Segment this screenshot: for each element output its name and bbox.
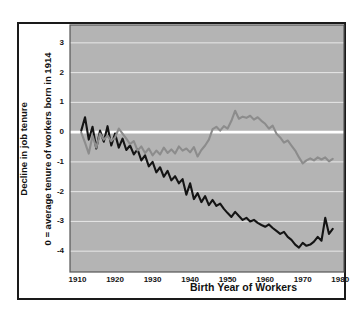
y-axis-label-line-1: Decline in job tenure (18, 102, 29, 195)
x-tick-label: 1940 (176, 275, 204, 284)
x-tick-label: 1960 (251, 275, 279, 284)
y-tick-label: 2 (46, 68, 64, 77)
y-tick-label: -3 (46, 216, 64, 225)
x-tick-label: 1970 (289, 275, 317, 284)
chart-figure: Decline in job tenure 0 = average tenure… (0, 0, 358, 314)
x-tick-label: 1980 (326, 275, 354, 284)
y-tick-label: -2 (46, 187, 64, 196)
y-tick-label: 3 (46, 38, 64, 47)
y-tick-label: 0 (46, 127, 64, 136)
y-axis-label-group: Decline in job tenure 0 = average tenure… (18, 24, 52, 274)
x-tick-label: 1910 (64, 275, 92, 284)
plot-background (70, 25, 344, 272)
y-tick-label: 1 (46, 97, 64, 106)
y-tick-label: -1 (46, 157, 64, 166)
y-tick-label: -4 (46, 246, 64, 255)
x-tick-label: 1930 (139, 275, 167, 284)
x-axis-label: Birth Year of Workers (190, 281, 297, 293)
x-tick-label: 1920 (101, 275, 129, 284)
x-tick-label: 1950 (214, 275, 242, 284)
